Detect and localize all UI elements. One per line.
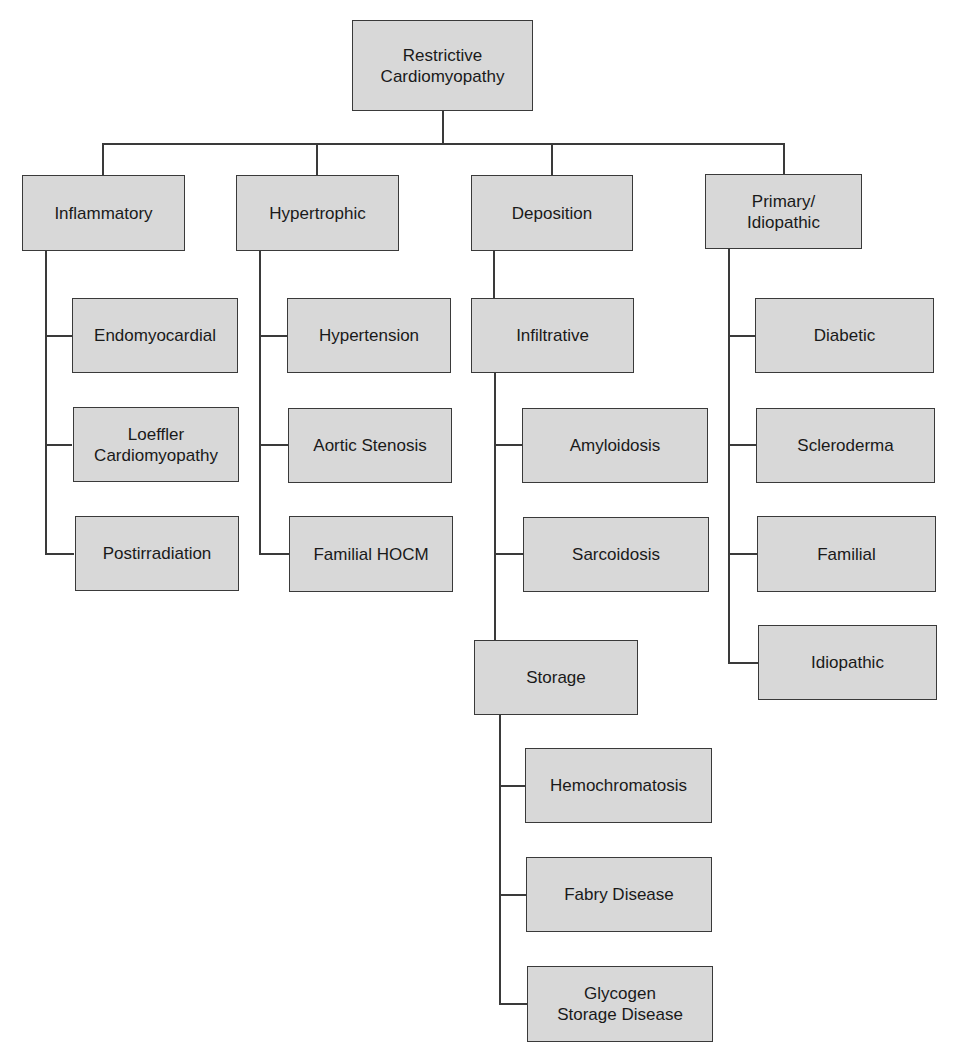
- connector-branch: [494, 553, 523, 555]
- connector-branch: [728, 553, 757, 555]
- connector-storage-trunk: [499, 714, 501, 1004]
- connector-hypertrophic-trunk: [259, 250, 261, 554]
- node-loeffler-cardiomyopathy: Loeffler Cardiomyopathy: [73, 407, 239, 482]
- node-inflammatory: Inflammatory: [22, 175, 185, 251]
- connector-primary-trunk: [728, 248, 730, 662]
- connector-branch: [728, 444, 756, 446]
- connector-inflammatory: [102, 143, 104, 175]
- connector-inflammatory-trunk: [45, 250, 47, 554]
- connector-branch: [45, 335, 72, 337]
- node-familial: Familial: [757, 516, 936, 592]
- connector-branch: [499, 894, 526, 896]
- node-amyloidosis: Amyloidosis: [522, 408, 708, 483]
- connector-branch: [45, 444, 72, 446]
- node-aortic-stenosis: Aortic Stenosis: [288, 408, 452, 483]
- node-familial-hocm: Familial HOCM: [289, 516, 453, 592]
- connector-infiltrative-trunk: [494, 372, 496, 640]
- node-deposition: Deposition: [471, 175, 633, 251]
- connector-branch: [259, 444, 288, 446]
- node-hypertrophic: Hypertrophic: [236, 175, 399, 251]
- connector-deposition: [551, 143, 553, 175]
- node-idiopathic: Idiopathic: [758, 625, 937, 700]
- node-storage: Storage: [474, 640, 638, 715]
- connector-branch: [499, 1003, 527, 1005]
- node-hypertension: Hypertension: [287, 298, 451, 373]
- node-fabry-disease: Fabry Disease: [526, 857, 712, 932]
- connector-branch: [728, 662, 758, 664]
- node-glycogen-storage-disease: Glycogen Storage Disease: [527, 966, 713, 1042]
- connector-deposition-trunk: [493, 250, 495, 298]
- connector-branch: [259, 335, 288, 337]
- connector-branch: [499, 785, 525, 787]
- node-diabetic: Diabetic: [755, 298, 934, 373]
- node-scleroderma: Scleroderma: [756, 408, 935, 483]
- node-endomyocardial: Endomyocardial: [72, 298, 238, 373]
- connector-hypertrophic: [316, 143, 318, 175]
- connector-branch: [728, 335, 756, 337]
- connector-branch: [259, 553, 289, 555]
- connector-branch: [45, 553, 74, 555]
- node-primary-idiopathic: Primary/ Idiopathic: [705, 174, 862, 249]
- node-infiltrative: Infiltrative: [471, 298, 634, 373]
- node-postirradiation: Postirradiation: [75, 516, 239, 591]
- connector-branch: [494, 444, 523, 446]
- connector-level1-bus: [102, 143, 784, 145]
- node-sarcoidosis: Sarcoidosis: [523, 517, 709, 592]
- node-root: Restrictive Cardiomyopathy: [352, 20, 533, 111]
- node-hemochromatosis: Hemochromatosis: [525, 748, 712, 823]
- connector-primary: [783, 143, 785, 175]
- connector-root-down: [442, 110, 444, 143]
